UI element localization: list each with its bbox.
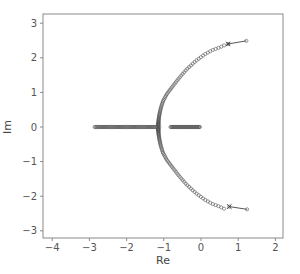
y-tick-label: −2 <box>22 191 37 202</box>
y-tick-label: −1 <box>22 156 37 167</box>
eigenvalue-point <box>222 207 225 210</box>
y-tick-label: 0 <box>31 122 37 133</box>
data-points <box>93 39 249 211</box>
y-tick-label: 2 <box>31 52 37 63</box>
x-axis-label: Re <box>156 254 170 267</box>
x-tick-label: −3 <box>82 242 97 253</box>
x-tick-label: 1 <box>235 242 241 253</box>
x-tick-label: −1 <box>156 242 171 253</box>
x-tick-label: 2 <box>272 242 278 253</box>
y-axis-label: Im <box>1 120 14 134</box>
eigenvalue-point <box>201 54 204 57</box>
root-locus-chart: −4−3−2−1012 3210−1−2−3 Re Im <box>0 0 300 274</box>
trajectory-line <box>229 207 247 210</box>
eigenvalue-point <box>222 44 225 47</box>
eigenvalue-point <box>201 197 204 200</box>
x-tick-label: −2 <box>119 242 134 253</box>
y-tick-label: −3 <box>22 225 37 236</box>
x-axis: −4−3−2−1012 <box>45 238 279 253</box>
y-axis: 3210−1−2−3 <box>22 18 43 237</box>
trajectory-line <box>228 41 246 44</box>
plot-frame <box>43 14 283 238</box>
x-tick-label: 0 <box>198 242 204 253</box>
y-tick-label: 3 <box>31 18 37 29</box>
x-tick-label: −4 <box>45 242 60 253</box>
y-tick-label: 1 <box>31 87 37 98</box>
